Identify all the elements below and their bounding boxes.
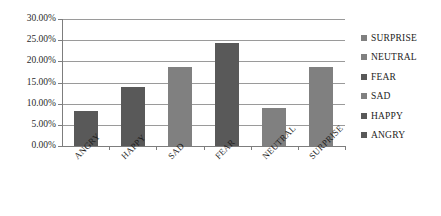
y-axis-tick-label: 0.00% [2, 140, 56, 150]
gridline [62, 19, 345, 20]
gridline [62, 104, 345, 105]
x-axis-tick [204, 146, 205, 150]
legend-item: FEAR [361, 67, 417, 87]
chart-legend: SURPRISENEUTRALFEARSADHAPPYANGRY [361, 28, 417, 145]
x-axis-tick [345, 146, 346, 150]
y-axis-tick-label: 25.00% [2, 34, 56, 44]
gridline [62, 61, 345, 62]
legend-item: ANGRY [361, 126, 417, 146]
legend-label: SAD [371, 91, 391, 101]
gridline [62, 125, 345, 126]
gridline [62, 83, 345, 84]
legend-swatch-icon [361, 74, 367, 80]
y-axis-tick [58, 104, 62, 105]
y-axis-tick-label: 5.00% [2, 119, 56, 129]
x-axis-tick [109, 146, 110, 150]
legend-label: HAPPY [371, 111, 403, 121]
legend-swatch-icon [361, 113, 367, 119]
bar [215, 43, 239, 146]
y-axis-tick [58, 125, 62, 126]
legend-label: SURPRISE [371, 33, 417, 43]
y-axis-tick-label: 20.00% [2, 55, 56, 65]
legend-item: SURPRISE [361, 28, 417, 48]
legend-swatch-icon [361, 93, 367, 99]
x-axis-tick [156, 146, 157, 150]
y-axis-tick [58, 19, 62, 20]
bar-chart: 0.00%5.00%10.00%15.00%20.00%25.00%30.00%… [0, 0, 441, 216]
x-axis-tick [298, 146, 299, 150]
y-axis-tick-label: 15.00% [2, 77, 56, 87]
legend-item: NEUTRAL [361, 48, 417, 68]
gridline [62, 40, 345, 41]
legend-label: ANGRY [371, 130, 405, 140]
y-axis-tick-label: 10.00% [2, 98, 56, 108]
y-axis-tick [58, 146, 62, 147]
legend-item: SAD [361, 87, 417, 107]
legend-swatch-icon [361, 54, 367, 60]
x-axis-tick [251, 146, 252, 150]
legend-label: NEUTRAL [371, 52, 417, 62]
y-axis-line [62, 19, 63, 147]
y-axis-tick [58, 61, 62, 62]
y-axis-tick-label: 30.00% [2, 13, 56, 23]
legend-label: FEAR [371, 72, 396, 82]
legend-swatch-icon [361, 35, 367, 41]
legend-item: HAPPY [361, 106, 417, 126]
y-axis-tick [58, 83, 62, 84]
bar [168, 67, 192, 146]
y-axis-tick [58, 40, 62, 41]
legend-swatch-icon [361, 132, 367, 138]
